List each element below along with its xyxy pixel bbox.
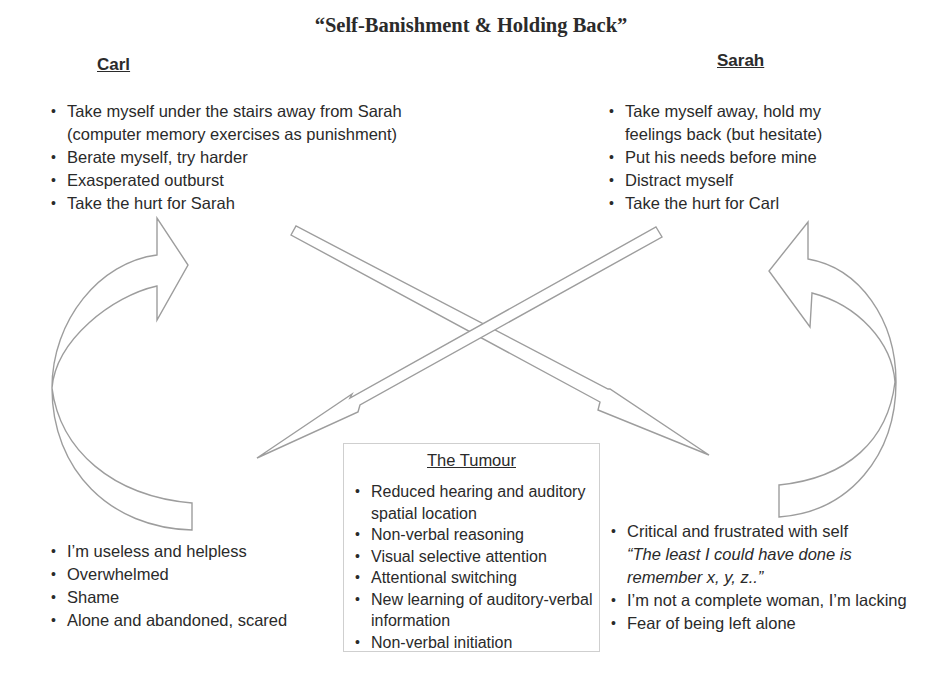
list-item: Fear of being left alone xyxy=(610,612,910,635)
list-item: Non-verbal reasoning xyxy=(354,524,594,546)
cross-arrow-carl-to-sarah-icon xyxy=(291,226,709,455)
list-item: Take the hurt for Carl xyxy=(608,192,868,215)
tumour-heading: The Tumour xyxy=(344,451,599,470)
list-item: Visual selective attention xyxy=(354,546,594,568)
list-item: Take myself under the stairs away from S… xyxy=(50,100,470,146)
list-item: I’m useless and helpless xyxy=(50,540,350,563)
sarah-feelings-list: Critical and frustrated with self “The l… xyxy=(610,520,910,635)
carl-behaviours-list: Take myself under the stairs away from S… xyxy=(50,100,470,215)
carl-heading: Carl xyxy=(97,55,130,75)
cross-arrow-sarah-to-carl-icon xyxy=(257,227,662,458)
sarah-feeling-text: Critical and frustrated with self xyxy=(627,522,848,540)
list-item: Shame xyxy=(50,586,350,609)
list-item: Critical and frustrated with self “The l… xyxy=(610,520,910,589)
left-cycle-arrow-icon xyxy=(52,218,192,530)
diagram-title: “Self-Banishment & Holding Back” xyxy=(0,14,942,37)
tumour-list: Reduced hearing and auditory spatial loc… xyxy=(354,481,594,653)
list-item: Attentional switching xyxy=(354,567,594,589)
tumour-box: The Tumour Reduced hearing and auditory … xyxy=(343,443,600,652)
list-item: Non-verbal initiation xyxy=(354,632,594,654)
list-item: Reduced hearing and auditory spatial loc… xyxy=(354,481,594,524)
list-item: Distract myself xyxy=(608,169,868,192)
list-item: I’m not a complete woman, I’m lacking xyxy=(610,589,910,612)
carl-feelings-list: I’m useless and helpless Overwhelmed Sha… xyxy=(50,540,350,632)
right-cycle-arrow-icon xyxy=(769,222,896,517)
list-item: Alone and abandoned, scared xyxy=(50,609,350,632)
list-item: Berate myself, try harder xyxy=(50,146,470,169)
sarah-heading: Sarah xyxy=(717,51,764,71)
list-item: Overwhelmed xyxy=(50,563,350,586)
list-item: Take the hurt for Sarah xyxy=(50,192,470,215)
sarah-feeling-quote: “The least I could have done is remember… xyxy=(627,545,852,586)
list-item: Take myself away, hold my feelings back … xyxy=(608,100,868,146)
list-item: New learning of auditory-verbal informat… xyxy=(354,589,594,632)
list-item: Put his needs before mine xyxy=(608,146,868,169)
sarah-behaviours-list: Take myself away, hold my feelings back … xyxy=(608,100,868,215)
list-item: Exasperated outburst xyxy=(50,169,470,192)
